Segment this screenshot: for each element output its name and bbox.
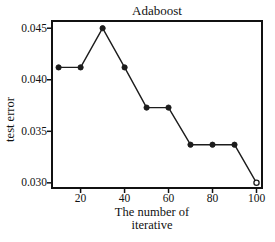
y-tick-label: 0.040 — [0, 73, 47, 86]
x-tick-label: 20 — [64, 192, 98, 205]
data-point-marker — [122, 65, 127, 70]
plot-frame — [52, 21, 262, 188]
chart-title: Adaboost — [52, 3, 262, 18]
x-tick-label: 100 — [240, 192, 274, 205]
data-point-marker — [100, 26, 105, 31]
adaboost-line-chart: Adaboost test error The number of iterat… — [0, 0, 275, 242]
data-point-marker — [56, 65, 61, 70]
y-tick-label: 0.030 — [0, 176, 47, 189]
data-series-line — [59, 28, 257, 183]
x-tick-label: 80 — [196, 192, 230, 205]
data-point-marker — [254, 180, 259, 185]
data-point-marker — [166, 105, 171, 110]
data-point-marker — [144, 105, 149, 110]
data-point-marker — [210, 142, 215, 147]
data-point-marker — [188, 142, 193, 147]
y-tick-label: 0.035 — [0, 125, 47, 138]
data-point-marker — [78, 65, 83, 70]
x-axis-label: The number of iterative — [47, 206, 257, 232]
x-tick-label: 40 — [108, 192, 142, 205]
x-tick-label: 60 — [152, 192, 186, 205]
data-point-marker — [232, 142, 237, 147]
y-tick-label: 0.045 — [0, 22, 47, 35]
y-axis-label: test error — [3, 85, 18, 155]
x-axis-label-line2: iterative — [47, 219, 257, 232]
